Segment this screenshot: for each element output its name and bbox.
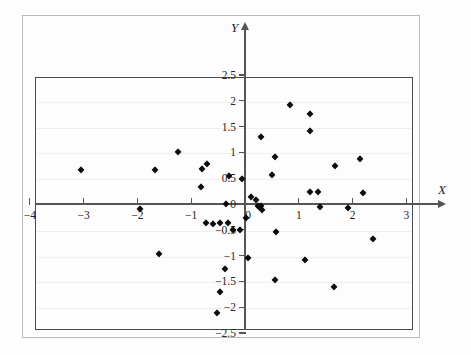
tick-mark-y xyxy=(239,100,246,101)
tick-mark-y xyxy=(239,152,246,153)
scatter-plot-figure: −4−3−2−101232.521.510.50−0.5−1−1.5−2−2.5… xyxy=(0,0,471,355)
y-tick-label: 1 xyxy=(0,146,236,158)
y-tick-label: 2 xyxy=(0,95,236,107)
tick-mark-y xyxy=(239,281,246,282)
y-axis-label: Y xyxy=(231,20,238,36)
y-tick-label: 2.5 xyxy=(0,69,236,81)
x-axis-label: X xyxy=(438,182,446,198)
y-tick-label: −1.5 xyxy=(0,275,236,287)
x-tick-label: 2 xyxy=(350,209,356,221)
x-tick-label: 3 xyxy=(404,209,410,221)
tick-mark-y xyxy=(239,74,246,75)
tick-mark-x xyxy=(352,198,353,205)
y-axis-arrow-icon xyxy=(241,22,249,30)
y-tick-label: −1 xyxy=(0,250,236,262)
y-tick-label: −2 xyxy=(0,301,236,313)
x-tick-label: 1 xyxy=(296,209,302,221)
tick-mark-x xyxy=(298,198,299,205)
y-tick-label: 0 xyxy=(0,198,236,210)
tick-mark-x xyxy=(406,198,407,205)
tick-mark-y xyxy=(239,307,246,308)
x-tick-label: −3 xyxy=(77,209,89,221)
tick-mark-y xyxy=(239,332,246,333)
x-tick-label: −1 xyxy=(185,209,197,221)
tick-mark-y xyxy=(239,126,246,127)
y-tick-label: 1.5 xyxy=(0,121,236,133)
y-tick-label: −2.5 xyxy=(0,327,236,339)
y-tick-label: −0.5 xyxy=(0,224,236,236)
x-tick-label: −4 xyxy=(24,209,36,221)
x-axis-arrow-icon xyxy=(438,200,446,208)
